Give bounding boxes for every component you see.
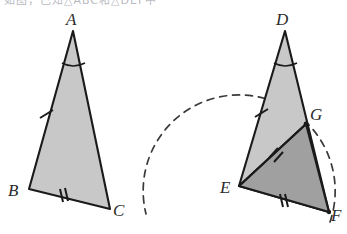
point-marker-G <box>304 122 309 127</box>
vertex-label-D: D <box>275 10 289 29</box>
vertex-label-A: A <box>65 10 77 29</box>
geometry-figure-canvas: 如图，已知△ABC和△DEF中 A B C <box>0 0 347 234</box>
vertex-label-B: B <box>8 181 19 200</box>
vertex-label-C: C <box>113 201 125 220</box>
vertex-label-E: E <box>219 178 231 197</box>
triangle-ABC-shape <box>29 31 110 209</box>
vertex-label-G: G <box>310 105 322 124</box>
geometry-diagram: A B C D E F G <box>0 0 347 234</box>
vertex-label-F: F <box>330 206 342 225</box>
